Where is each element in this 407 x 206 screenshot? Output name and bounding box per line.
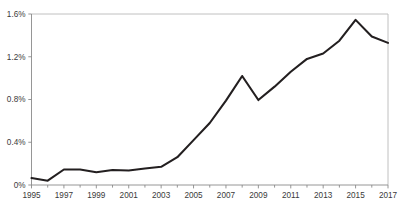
x-tick-label: 2015 [346, 191, 365, 200]
line-chart: 0%0.4%0.8%1.2%1.6% 199519971999200120032… [0, 0, 407, 206]
x-axis: 1995199719992001200320052007200920112013… [22, 185, 397, 200]
x-tick-label: 1997 [55, 191, 74, 200]
data-line-series-1 [32, 20, 389, 181]
x-tick-label: 2007 [217, 191, 236, 200]
x-tick-label: 1999 [87, 191, 106, 200]
x-tick-label: 1995 [22, 191, 41, 200]
x-tick-label: 2003 [152, 191, 171, 200]
chart-frame [32, 14, 389, 185]
y-axis-tick-labels: 0%0.4%0.8%1.2%1.6% [7, 10, 26, 190]
plot-series-group [32, 20, 389, 181]
chart-canvas: 0%0.4%0.8%1.2%1.6% 199519971999200120032… [0, 0, 407, 206]
x-tick-label: 2017 [379, 191, 398, 200]
y-tick-label: 0.4% [7, 138, 26, 147]
y-tick-label: 0.8% [7, 95, 26, 104]
y-axis: 0%0.4%0.8%1.2%1.6% [7, 10, 32, 190]
y-tick-label: 1.6% [7, 10, 26, 19]
y-tick-label: 1.2% [7, 53, 26, 62]
x-tick-label: 2013 [314, 191, 333, 200]
x-axis-tick-labels: 1995199719992001200320052007200920112013… [22, 191, 397, 200]
x-tick-label: 2009 [249, 191, 268, 200]
x-tick-label: 2005 [184, 191, 203, 200]
x-tick-label: 2011 [282, 191, 300, 200]
x-tick-label: 2001 [120, 191, 139, 200]
y-axis-tick-marks [28, 14, 31, 185]
x-axis-tick-marks [32, 185, 389, 188]
y-tick-label: 0% [14, 181, 26, 190]
